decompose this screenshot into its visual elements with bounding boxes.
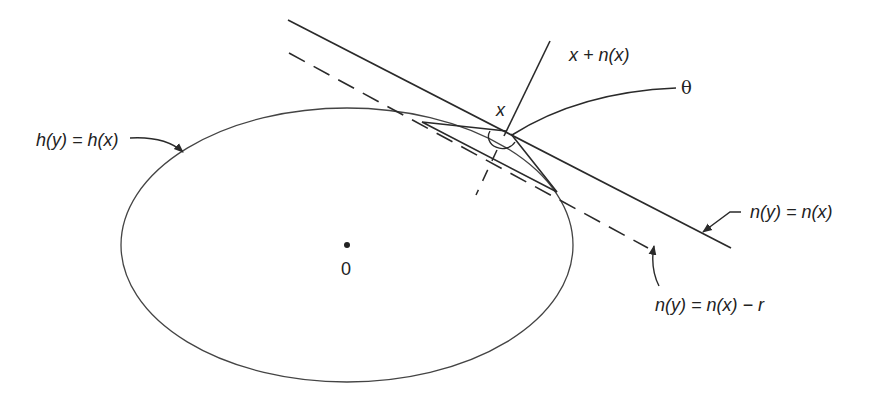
normal-line [504,41,550,136]
origin-point [344,242,350,248]
tangent-line [288,20,731,248]
shifted-plane-label: n(y) = n(x) − r [655,295,765,315]
shifted-dashed-line [289,53,648,248]
normal-point-label: x + n(x) [568,45,630,65]
point-x-label: x [495,100,506,120]
tangent-plane-leader-arrow [703,212,741,232]
theta-leader [512,88,676,135]
theta-label: θ [681,77,692,98]
diagram-canvas: 0 θ x x + n(x) h(y) = h(x) n(y) = n(x) n… [0,0,881,396]
level-set-label: h(y) = h(x) [36,130,119,150]
shifted-plane-leader-arrow [653,246,659,286]
tangent-plane-label: n(y) = n(x) [750,202,833,222]
origin-label: 0 [341,259,351,279]
level-set-leader-arrow [130,138,183,152]
normal-dashed-continuation [476,150,497,195]
